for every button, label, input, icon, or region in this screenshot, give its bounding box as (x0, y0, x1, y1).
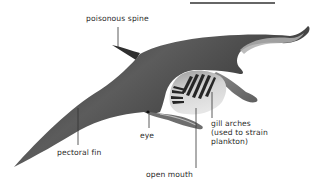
manta-ray-diagram: poisonous spine gill arches (used to str… (0, 0, 320, 186)
label-pectoral-fin: pectoral fin (57, 148, 101, 157)
eye-shape (146, 110, 149, 113)
manta-ray-illustration (0, 0, 320, 186)
label-open-mouth: open mouth (146, 170, 193, 179)
label-poisonous-spine: poisonous spine (86, 14, 149, 23)
label-gill-arches: gill arches (used to strain plankton) (211, 119, 268, 146)
label-eye: eye (140, 131, 154, 140)
lower-cephalic-fin (148, 112, 203, 129)
spine-shape (112, 45, 140, 60)
